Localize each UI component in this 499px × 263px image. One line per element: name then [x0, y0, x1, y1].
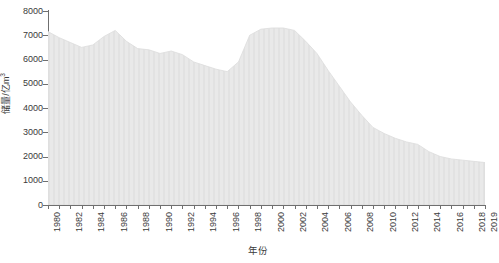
y-tick-label: 8000 — [9, 7, 43, 16]
y-tick-label-wrap: 7000 — [0, 31, 43, 40]
x-tick-label: 2006 — [344, 212, 353, 232]
x-tick-mark — [138, 205, 139, 209]
x-tick-label: 1992 — [187, 212, 196, 232]
x-tick-label: 2014 — [433, 212, 442, 232]
x-tick-mark — [339, 205, 340, 209]
x-tick-label: 1984 — [97, 212, 106, 232]
x-tick-label: 2018 — [478, 212, 487, 232]
x-tick-label: 2004 — [321, 212, 330, 232]
x-tick-label: 1988 — [142, 212, 151, 232]
y-tick-label: 5000 — [9, 79, 43, 88]
x-tick-mark — [463, 205, 464, 209]
x-tick-mark — [418, 205, 419, 209]
x-tick-label: 2019 — [490, 212, 499, 232]
x-tick-mark — [70, 205, 71, 209]
x-tick-mark — [295, 205, 296, 209]
area-series-storage — [48, 11, 485, 205]
y-tick-label: 0 — [9, 201, 43, 210]
y-tick-label: 1000 — [9, 176, 43, 185]
y-tick-label-wrap: 6000 — [0, 55, 43, 64]
x-tick-mark — [205, 205, 206, 209]
x-tick-mark — [126, 205, 127, 209]
x-tick-mark — [182, 205, 183, 209]
x-tick-label: 2010 — [389, 212, 398, 232]
x-tick-mark — [216, 205, 217, 209]
x-tick-mark — [283, 205, 284, 209]
x-tick-mark — [227, 205, 228, 209]
plot-area — [48, 11, 485, 205]
x-tick-mark — [407, 205, 408, 209]
x-tick-mark — [351, 205, 352, 209]
x-tick-mark — [261, 205, 262, 209]
x-tick-mark — [429, 205, 430, 209]
x-tick-label: 1986 — [120, 212, 129, 232]
x-tick-mark — [362, 205, 363, 209]
x-tick-label: 1982 — [75, 212, 84, 232]
x-tick-label: 2008 — [366, 212, 375, 232]
x-tick-label: 1996 — [232, 212, 241, 232]
x-tick-mark — [306, 205, 307, 209]
y-tick-label-wrap: 4000 — [0, 104, 43, 113]
x-tick-label: 2012 — [411, 212, 420, 232]
x-tick-mark — [238, 205, 239, 209]
x-tick-mark — [272, 205, 273, 209]
x-tick-label: 1994 — [209, 212, 218, 232]
y-tick-label-wrap: 1000 — [0, 176, 43, 185]
x-tick-mark — [474, 205, 475, 209]
y-tick-label-wrap: 3000 — [0, 128, 43, 137]
y-tick-label-wrap: 2000 — [0, 152, 43, 161]
y-tick-label: 4000 — [9, 104, 43, 113]
x-tick-label: 2016 — [456, 212, 465, 232]
x-tick-mark — [160, 205, 161, 209]
x-axis-title-text: 年份 — [228, 246, 268, 256]
area-path — [48, 28, 485, 205]
y-tick-label: 3000 — [9, 128, 43, 137]
y-tick-label: 6000 — [9, 55, 43, 64]
x-tick-mark — [48, 205, 49, 209]
x-tick-mark — [93, 205, 94, 209]
x-tick-mark — [317, 205, 318, 209]
x-tick-label: 1990 — [165, 212, 174, 232]
x-tick-mark — [171, 205, 172, 209]
y-tick-label: 2000 — [9, 152, 43, 161]
x-tick-mark — [451, 205, 452, 209]
x-tick-mark — [328, 205, 329, 209]
y-axis-title-exponent: 3 — [0, 73, 6, 77]
x-tick-mark — [149, 205, 150, 209]
x-tick-mark — [373, 205, 374, 209]
x-tick-label: 1998 — [254, 212, 263, 232]
x-axis-line — [48, 205, 485, 206]
x-tick-label: 2002 — [299, 212, 308, 232]
x-tick-mark — [395, 205, 396, 209]
x-tick-mark — [115, 205, 116, 209]
x-tick-mark — [384, 205, 385, 209]
x-tick-mark — [59, 205, 60, 209]
x-axis-title: 年份 — [0, 246, 495, 256]
x-tick-mark — [485, 205, 486, 209]
x-tick-label: 1980 — [53, 212, 62, 232]
x-tick-mark — [194, 205, 195, 209]
y-tick-label-wrap: 8000 — [0, 7, 43, 16]
x-tick-mark — [104, 205, 105, 209]
x-tick-mark — [250, 205, 251, 209]
y-tick-label-wrap: 0 — [0, 201, 43, 210]
x-tick-mark — [440, 205, 441, 209]
x-tick-mark — [82, 205, 83, 209]
y-tick-label-wrap: 5000 — [0, 79, 43, 88]
y-tick-label: 7000 — [9, 31, 43, 40]
x-tick-label: 2000 — [277, 212, 286, 232]
